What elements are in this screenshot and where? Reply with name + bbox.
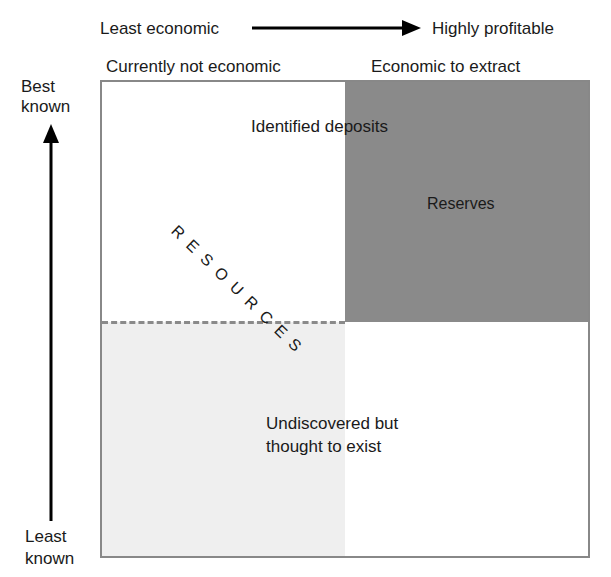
- axis-label-highly-profitable: Highly profitable: [432, 20, 554, 37]
- undiscovered-label-line1: Undiscovered but: [266, 415, 398, 432]
- column-header-economic: Economic to extract: [371, 58, 520, 75]
- vertical-arrow-icon: [0, 0, 100, 577]
- reserves-label: Reserves: [427, 196, 495, 212]
- identified-deposits-label: Identified deposits: [251, 118, 388, 135]
- resource-classification-box: Identified deposits Reserves RESOURCES U…: [100, 80, 590, 558]
- axis-label-least: Least: [25, 528, 67, 545]
- undiscovered-label-line2: thought to exist: [266, 438, 381, 455]
- resources-divider-line: [102, 321, 345, 324]
- axis-label-known-bottom: known: [25, 550, 74, 567]
- column-header-not-economic: Currently not economic: [106, 58, 281, 75]
